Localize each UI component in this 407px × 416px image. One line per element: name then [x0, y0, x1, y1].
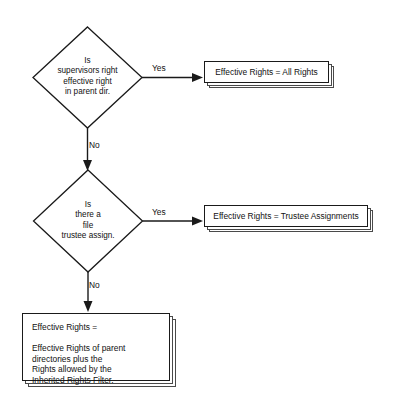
result-box-face: Effective Rights = Trustee Assignments: [204, 205, 368, 227]
flowchart-canvas: Is supervisors right effective right in …: [0, 0, 407, 416]
decision-supervisor-right-shape[interactable]: [33, 27, 142, 128]
decision-file-trustee-shape[interactable]: [34, 170, 143, 272]
edge-label-supervisor-no: No: [89, 140, 100, 150]
result-box-all-rights-text: Effective Rights = All Rights: [205, 67, 328, 78]
result-box-trustee-assignments-text: Effective Rights = Trustee Assignments: [205, 211, 367, 222]
arrowhead-trustee-yes: [192, 217, 203, 226]
result-box-inherited-rights[interactable]: Effective Rights = Effective Rights of p…: [22, 313, 170, 381]
result-box-trustee-assignments[interactable]: Effective Rights = Trustee Assignments: [204, 205, 368, 227]
arrowhead-trustee-no: [84, 301, 93, 312]
arrowhead-supervisor-yes: [192, 73, 203, 82]
result-box-face: Effective Rights = All Rights: [204, 61, 329, 83]
result-box-face: Effective Rights = Effective Rights of p…: [22, 313, 170, 381]
result-box-inherited-rights-text: Effective Rights = Effective Rights of p…: [32, 322, 163, 386]
arrowhead-supervisor-no: [83, 160, 92, 171]
edge-label-supervisor-yes: Yes: [152, 63, 166, 73]
edge-label-trustee-no: No: [89, 280, 100, 290]
edge-label-trustee-yes: Yes: [152, 207, 166, 217]
result-box-all-rights[interactable]: Effective Rights = All Rights: [204, 61, 329, 83]
